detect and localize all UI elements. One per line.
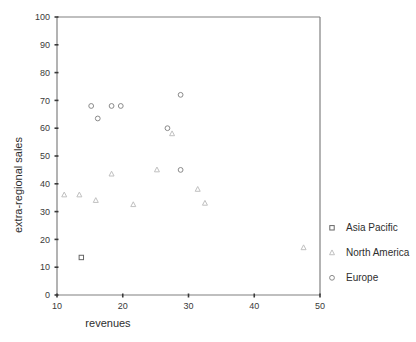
legend-marker-triangle (330, 250, 335, 255)
data-point-europe (178, 92, 183, 97)
y-tick-label: 10 (40, 262, 50, 272)
x-tick-label: 10 (52, 301, 62, 311)
y-tick-label: 30 (40, 207, 50, 217)
y-tick-label: 0 (45, 290, 50, 300)
legend-label: Europe (346, 272, 379, 283)
x-tick-label: 20 (118, 301, 128, 311)
data-point-europe (89, 104, 94, 109)
data-point-asia-pacific (79, 255, 83, 259)
data-point-north-america (301, 245, 306, 250)
legend-label: North America (346, 247, 410, 258)
y-tick-label: 60 (40, 123, 50, 133)
data-point-north-america (131, 202, 136, 207)
y-tick-label: 40 (40, 179, 50, 189)
x-tick-label: 50 (315, 301, 325, 311)
y-tick-label: 70 (40, 96, 50, 106)
data-point-north-america (77, 192, 82, 197)
data-point-north-america (170, 131, 175, 136)
data-point-europe (165, 126, 170, 131)
x-tick-label: 40 (249, 301, 259, 311)
data-point-north-america (62, 192, 67, 197)
data-point-europe (178, 168, 183, 173)
legend-marker-circle (330, 275, 335, 280)
y-tick-label: 80 (40, 68, 50, 78)
data-point-north-america (195, 187, 200, 192)
chart-canvas: 01020304050607080901001020304050revenues… (0, 0, 416, 342)
legend-marker-square (330, 226, 334, 230)
x-tick-label: 30 (183, 301, 193, 311)
data-point-europe (109, 104, 114, 109)
data-point-europe (95, 116, 100, 121)
y-axis-title: extra-regional sales (12, 137, 24, 233)
legend-label: Asia Pacific (346, 222, 398, 233)
data-point-north-america (154, 167, 159, 172)
scatter-chart: 01020304050607080901001020304050revenues… (0, 0, 416, 342)
y-tick-label: 50 (40, 151, 50, 161)
data-point-north-america (109, 171, 114, 176)
data-point-north-america (202, 200, 207, 205)
y-tick-label: 20 (40, 235, 50, 245)
y-tick-label: 100 (35, 12, 50, 22)
data-point-north-america (93, 198, 98, 203)
x-axis-title: revenues (85, 317, 131, 329)
data-point-europe (118, 104, 123, 109)
y-tick-label: 90 (40, 40, 50, 50)
